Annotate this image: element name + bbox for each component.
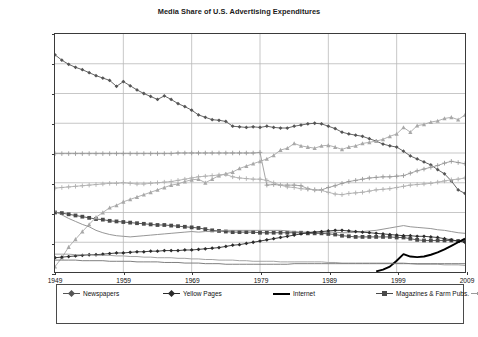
legend-item-magazines-farm-pubs[interactable]: Magazines & Farm Pubs.	[376, 290, 471, 298]
legend-label: Yellow Pages	[183, 290, 222, 297]
legend-label: Internet	[293, 290, 315, 297]
chart-figure: Media Share of U.S. Advertising Expendit…	[0, 0, 478, 337]
chart-legend: NewspapersYellow PagesInternetMagazines …	[56, 284, 464, 324]
x-tick-mark	[55, 272, 56, 275]
legend-marker-icon	[63, 290, 80, 298]
x-tick-label: 2009	[447, 277, 478, 284]
legend-item-direct-mail[interactable]: Direct Mail	[471, 290, 478, 298]
legend-label: Magazines & Farm Pubs.	[396, 290, 469, 297]
plot-area: 0.00%5.00%10.00%15.00%20.00%25.00%30.00%…	[54, 33, 466, 273]
y-tick-mark	[52, 214, 55, 215]
x-tick-label: 1999	[378, 277, 418, 284]
legend-item-internet[interactable]: Internet	[273, 290, 376, 298]
legend-item-newspapers[interactable]: Newspapers	[63, 290, 163, 298]
x-tick-label: 1949	[35, 277, 75, 284]
x-tick-mark	[192, 272, 193, 275]
y-tick-mark	[52, 244, 55, 245]
legend-marker-icon	[471, 290, 478, 298]
y-tick-mark	[52, 34, 55, 35]
chart-title: Media Share of U.S. Advertising Expendit…	[0, 7, 478, 16]
x-tick-label: 1979	[241, 277, 281, 284]
x-tick-label: 1959	[104, 277, 144, 284]
y-tick-mark	[52, 124, 55, 125]
x-tick-mark	[398, 272, 399, 275]
legend-marker-icon	[163, 290, 180, 298]
legend-grid: NewspapersYellow PagesInternetMagazines …	[63, 288, 463, 300]
y-tick-mark	[52, 64, 55, 65]
x-tick-mark	[330, 272, 331, 275]
series-internet	[376, 239, 465, 272]
legend-marker-icon	[273, 290, 290, 298]
series-magazines-farm-pubs	[55, 211, 465, 243]
series-tv-cable	[55, 113, 465, 269]
x-tick-mark	[261, 272, 262, 275]
x-tick-mark	[467, 272, 468, 275]
legend-item-yellow-pages[interactable]: Yellow Pages	[163, 290, 273, 298]
y-tick-mark	[52, 94, 55, 95]
legend-label: Newspapers	[83, 290, 119, 297]
y-tick-mark	[52, 154, 55, 155]
x-tick-label: 1969	[172, 277, 212, 284]
x-tick-label: 1989	[310, 277, 350, 284]
x-tick-mark	[124, 272, 125, 275]
series-layer	[55, 34, 465, 272]
y-tick-mark	[52, 184, 55, 185]
legend-marker-icon	[376, 290, 393, 298]
series-billboards-out-of-home	[55, 260, 465, 264]
